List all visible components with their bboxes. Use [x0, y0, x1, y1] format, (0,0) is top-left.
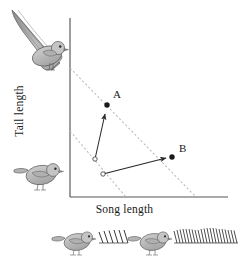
- point-b-label: B: [179, 142, 186, 154]
- lower-constraint-line: [70, 131, 126, 197]
- long-song-waveform: [174, 228, 238, 243]
- arrow-to-point-b: [103, 158, 166, 174]
- long-tailed-bird-illustration: [12, 10, 69, 70]
- constraint-lines: [70, 68, 196, 197]
- point-b: [169, 154, 174, 159]
- y-axis-label: Tail length: [13, 66, 25, 156]
- point-a-label: A: [113, 88, 121, 100]
- data-points: [93, 102, 175, 176]
- axes: [70, 18, 228, 197]
- point-a: [104, 102, 109, 107]
- short-song-bird-illustration: [52, 230, 128, 255]
- x-axis-label: Song length: [0, 203, 249, 215]
- short-tailed-bird-illustration: [14, 164, 64, 190]
- short-song-waveform: [99, 230, 128, 243]
- trade-off-figure: [0, 0, 249, 268]
- start-point-b: [101, 172, 105, 176]
- long-song-bird-illustration: [128, 228, 238, 255]
- start-point-a: [93, 157, 97, 161]
- upper-constraint-line: [70, 68, 196, 197]
- arrow-to-point-a: [95, 114, 105, 159]
- evolution-arrows: [95, 114, 166, 174]
